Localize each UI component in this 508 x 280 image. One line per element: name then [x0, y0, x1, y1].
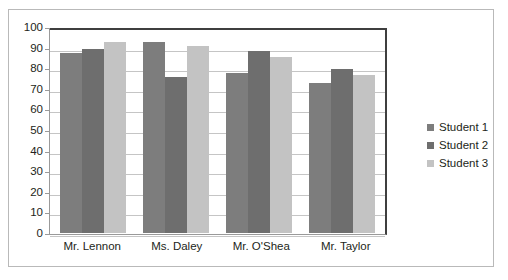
legend-item[interactable]: Student 2	[427, 136, 488, 154]
bar[interactable]	[143, 42, 165, 233]
legend-label: Student 2	[439, 139, 488, 151]
y-axis-tick-mark	[45, 131, 50, 132]
bar[interactable]	[104, 42, 126, 233]
y-axis-tick-label: 80	[11, 63, 43, 74]
y-axis-tick-mark	[45, 213, 50, 214]
legend: Student 1Student 2Student 3	[427, 118, 488, 172]
x-axis-tick-label: Mr. Lennon	[50, 240, 135, 252]
legend-item[interactable]: Student 1	[427, 118, 488, 136]
y-axis-tick-label: 10	[11, 207, 43, 218]
y-axis-tick-mark	[45, 234, 50, 235]
bar[interactable]	[187, 46, 209, 233]
bar[interactable]	[353, 75, 375, 233]
x-axis-tick-label: Mr. O'Shea	[219, 240, 304, 252]
legend-swatch-icon	[427, 160, 434, 167]
y-axis-tick-label: 50	[11, 125, 43, 136]
y-axis-tick-mark	[45, 172, 50, 173]
y-axis-tick-mark	[45, 152, 50, 153]
legend-label: Student 1	[439, 121, 488, 133]
y-axis-tick-label: 90	[11, 43, 43, 54]
y-axis-tick-label: 100	[11, 22, 43, 33]
legend-label: Student 3	[439, 157, 488, 169]
y-axis-tick-mark	[45, 69, 50, 70]
bar-group	[300, 30, 383, 233]
bar[interactable]	[165, 77, 187, 233]
y-axis-tick-mark	[45, 49, 50, 50]
bar[interactable]	[248, 51, 270, 233]
x-axis-labels: Mr. LennonMs. DaleyMr. O'SheaMr. Taylor	[50, 240, 388, 252]
legend-item[interactable]: Student 3	[427, 154, 488, 172]
y-axis-tick-label: 30	[11, 166, 43, 177]
plot-wrapper: 1009080706050403020100	[49, 28, 387, 235]
bar[interactable]	[331, 69, 353, 233]
y-axis-tick-label: 40	[11, 146, 43, 157]
legend-swatch-icon	[427, 124, 434, 131]
bar[interactable]	[309, 83, 331, 233]
bar[interactable]	[60, 53, 82, 233]
bar[interactable]	[82, 49, 104, 234]
x-axis-tick-label: Ms. Daley	[135, 240, 220, 252]
gridline	[50, 236, 385, 237]
y-axis-tick-mark	[45, 90, 50, 91]
y-axis-tick-label: 60	[11, 104, 43, 115]
bar-groups	[51, 30, 383, 233]
y-axis-tick-label: 70	[11, 84, 43, 95]
legend-swatch-icon	[427, 142, 434, 149]
bar-group	[134, 30, 217, 233]
bar[interactable]	[270, 57, 292, 233]
bar-group	[51, 30, 134, 233]
y-axis-tick-label: 20	[11, 187, 43, 198]
plot-area	[49, 28, 387, 235]
y-axis-tick-mark	[45, 193, 50, 194]
chart-frame: 1009080706050403020100 Mr. LennonMs. Dal…	[8, 9, 494, 267]
x-axis-tick-label: Mr. Taylor	[304, 240, 389, 252]
y-axis-tick-label: 0	[11, 228, 43, 239]
bar[interactable]	[226, 73, 248, 233]
y-axis-tick-mark	[45, 28, 50, 29]
bar-group	[217, 30, 300, 233]
y-axis-tick-mark	[45, 110, 50, 111]
